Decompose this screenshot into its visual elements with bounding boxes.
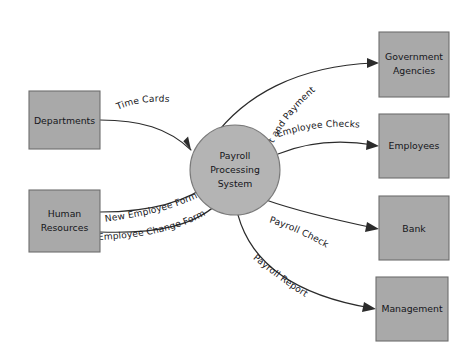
entity-departments[interactable]: Departments (29, 91, 100, 149)
arrow-head-icon (367, 58, 379, 68)
flow-employee-checks: Employee Checks (275, 119, 379, 154)
entity-employees[interactable]: Employees (379, 114, 449, 178)
process-payroll-processing-system[interactable]: Payroll Processing System (190, 125, 280, 215)
entity-government-agencies-label-line1: Government (385, 51, 443, 62)
entity-human-resources[interactable]: Human Resources (29, 190, 100, 252)
entity-human-resources-label-line1: Human (48, 208, 82, 219)
flow-label-payroll-check: Payroll Check (268, 215, 331, 250)
flow-time-cards: Time Cards (100, 94, 195, 150)
entity-management-label: Management (381, 303, 443, 314)
entity-bank-label: Bank (402, 223, 426, 234)
arrow-head-icon (362, 302, 376, 312)
entity-government-agencies-label-line2: Agencies (393, 65, 435, 76)
entity-bank[interactable]: Bank (379, 196, 449, 260)
flow-payroll-check: Payroll Check (266, 200, 379, 250)
entity-employees-label: Employees (389, 140, 440, 151)
data-flow-diagram: Time Cards New Employee Form Employee Ch… (0, 0, 467, 360)
entity-human-resources-label-line2: Resources (41, 222, 89, 233)
flow-label-time-cards: Time Cards (114, 94, 170, 113)
entity-departments-label: Departments (34, 115, 95, 126)
arrow-head-icon (366, 140, 379, 150)
process-label-line1: Payroll (220, 150, 251, 161)
process-label-line3: System (218, 178, 253, 189)
entity-government-agencies[interactable]: Government Agencies (379, 32, 449, 97)
entity-management[interactable]: Management (376, 277, 448, 341)
diagram-canvas: Time Cards New Employee Form Employee Ch… (0, 0, 467, 360)
arrow-head-icon (365, 222, 379, 232)
process-label-line2: Processing (210, 164, 260, 175)
flow-label-payroll-report: Payroll Report (251, 252, 310, 299)
